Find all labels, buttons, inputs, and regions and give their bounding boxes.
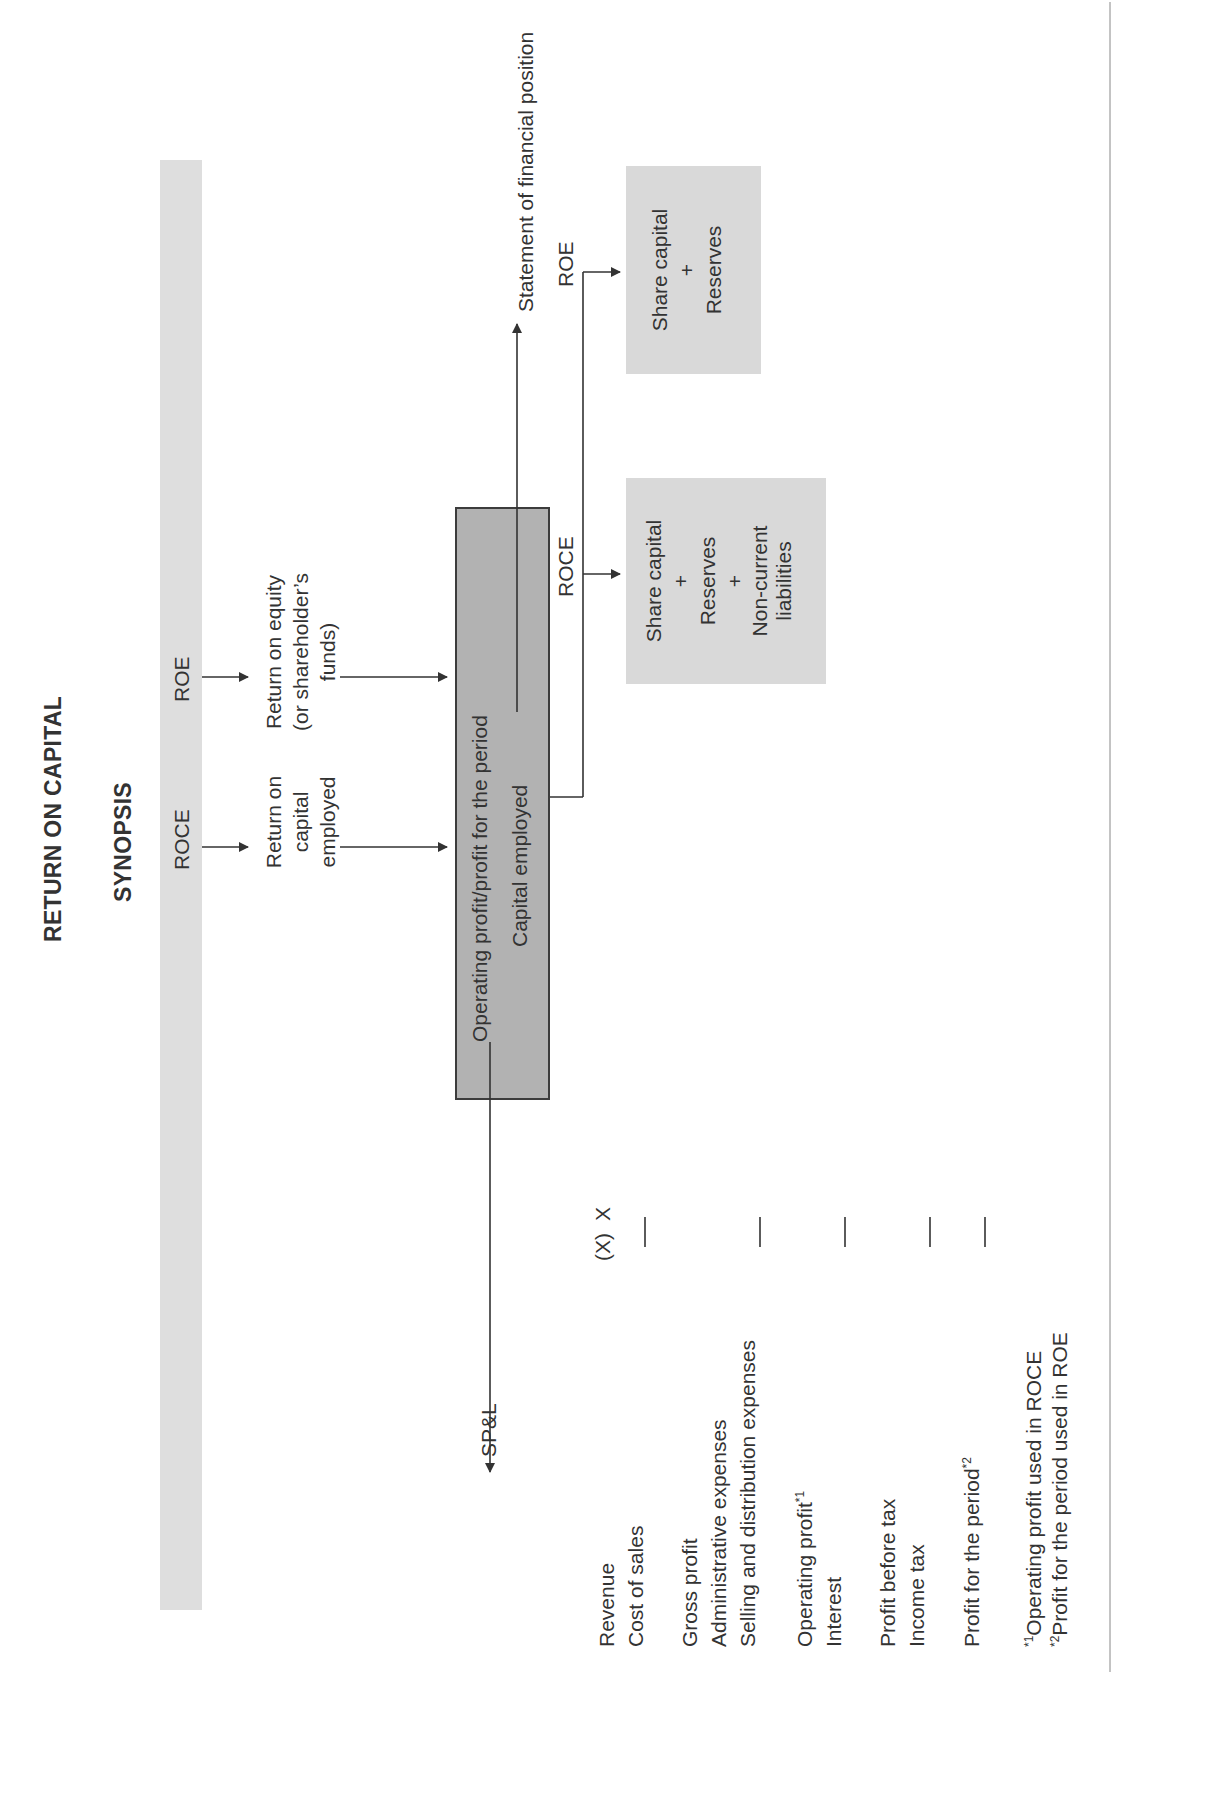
- connector-lines: [0, 0, 1225, 1802]
- diagram-canvas: RETURN ON CAPITAL SYNOPSIS ROCE ROE Retu…: [0, 0, 1225, 1802]
